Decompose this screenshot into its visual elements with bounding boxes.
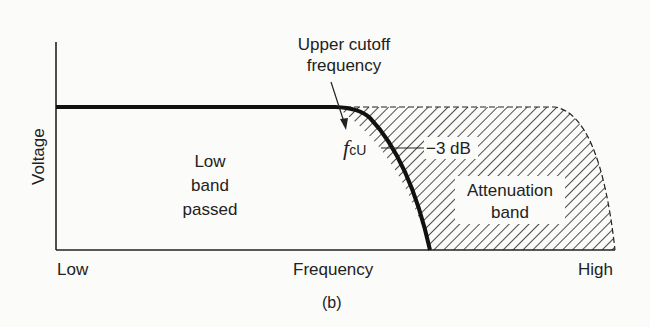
atten-line1: Attenuation xyxy=(455,180,565,202)
db-label: −3 dB xyxy=(426,140,471,157)
figure-caption: (b) xyxy=(322,295,342,311)
passed-line3: passed xyxy=(175,198,245,222)
fcu-label: fcU xyxy=(343,137,366,159)
x-axis-label: Frequency xyxy=(293,261,373,278)
passband-label: Low band passed xyxy=(175,150,245,222)
atten-line2: band xyxy=(455,202,565,224)
cutoff-line1: Upper cutoff xyxy=(284,36,404,53)
passed-line2: band xyxy=(175,174,245,198)
arrow-head-icon xyxy=(340,118,348,130)
cutoff-pointer xyxy=(331,82,344,122)
cutoff-annotation: Upper cutoff frequency xyxy=(284,36,404,74)
cutoff-line2: frequency xyxy=(284,57,404,74)
x-tick-low: Low xyxy=(57,261,88,278)
passed-line1: Low xyxy=(175,150,245,174)
x-tick-high: High xyxy=(578,261,613,278)
y-axis-label: Voltage xyxy=(30,128,47,185)
attenuation-label: Attenuation band xyxy=(455,180,565,224)
fcu-sub: cU xyxy=(349,142,366,158)
